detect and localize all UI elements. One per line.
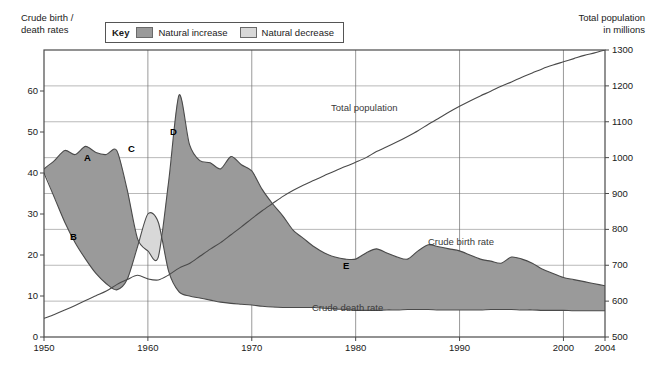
right-tick-1300: 1300: [612, 44, 646, 55]
left-tick-20: 20: [8, 249, 38, 260]
left-tick-60: 60: [8, 85, 38, 96]
annotation-point-a: A: [84, 152, 91, 163]
right-tick-900: 900: [612, 188, 646, 199]
x-tick-1950: 1950: [27, 342, 61, 353]
x-tick-1970: 1970: [235, 342, 269, 353]
chart-container: Crude birth / death rates Total populati…: [0, 0, 651, 369]
label-crude-death-rate: Crude death rate: [312, 302, 383, 313]
x-tick-1980: 1980: [339, 342, 373, 353]
plot-area: [0, 0, 651, 369]
right-tick-800: 800: [612, 223, 646, 234]
right-tick-500: 500: [612, 331, 646, 342]
label-total-population: Total population: [331, 102, 398, 113]
annotation-point-c: C: [128, 143, 135, 154]
right-tick-700: 700: [612, 259, 646, 270]
left-tick-10: 10: [8, 290, 38, 301]
area-natural-decrease: [139, 213, 161, 261]
right-tick-600: 600: [612, 295, 646, 306]
left-tick-50: 50: [8, 126, 38, 137]
right-tick-1000: 1000: [612, 152, 646, 163]
label-crude-birth-rate: Crude birth rate: [428, 236, 494, 247]
left-tick-0: 0: [8, 331, 38, 342]
x-tick-2004: 2004: [588, 342, 622, 353]
right-tick-1200: 1200: [612, 80, 646, 91]
annotation-point-b: B: [70, 231, 77, 242]
annotation-point-d: D: [170, 126, 177, 137]
left-tick-40: 40: [8, 167, 38, 178]
x-tick-1990: 1990: [443, 342, 477, 353]
left-tick-30: 30: [8, 208, 38, 219]
annotation-point-e: E: [343, 260, 349, 271]
x-tick-1960: 1960: [131, 342, 165, 353]
right-tick-1100: 1100: [612, 116, 646, 127]
x-tick-2000: 2000: [546, 342, 580, 353]
